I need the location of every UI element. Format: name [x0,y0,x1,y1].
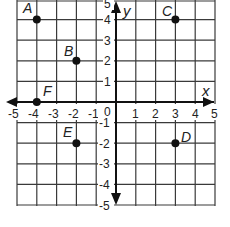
y-tick: -1 [99,116,110,130]
y-axis-label: y [122,2,132,19]
x-tick: -2 [68,107,79,121]
point-a [33,16,41,24]
point-d [171,139,179,147]
x-tick: -4 [28,107,39,121]
coordinate-grid: y x -5 -4 -3 -2 -1 0 1 2 3 4 5 5 4 3 2 1… [0,0,230,227]
point-b-label: B [64,43,73,59]
x-axis-label: x [201,82,210,99]
y-tick: -5 [99,199,110,213]
x-tick: -1 [88,107,99,121]
point-c-label: C [162,3,173,19]
y-tick: 2 [104,54,111,68]
x-tick: 5 [211,107,218,121]
x-tick: 3 [172,107,179,121]
point-f-label: F [43,83,53,99]
y-tick: -4 [99,178,110,192]
point-e [72,139,80,147]
y-tick: 4 [104,13,111,27]
y-tick: 1 [104,75,111,89]
point-c [171,16,179,24]
y-tick: 3 [104,34,111,48]
y-tick: -2 [99,137,110,151]
point-d-label: D [181,129,191,145]
x-tick: 2 [152,107,159,121]
x-tick: 1 [132,107,139,121]
y-tick: -3 [99,157,110,171]
x-tick: 4 [192,107,199,121]
point-e-label: E [63,124,73,140]
x-tick: -5 [8,107,19,121]
point-a-label: A [22,0,32,16]
point-f [33,98,41,106]
point-b [72,57,80,65]
y-tick: 5 [104,0,111,11]
x-tick: -3 [48,107,59,121]
